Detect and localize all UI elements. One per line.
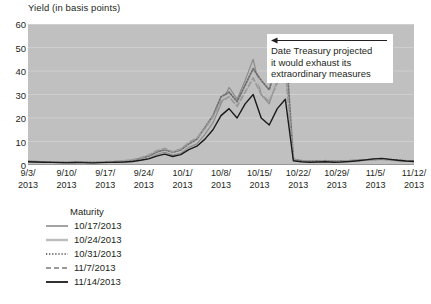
legend-swatch-icon <box>46 249 68 259</box>
x-tick-label: 11/12/2013 <box>388 168 431 191</box>
legend-swatch-icon <box>46 221 68 231</box>
legend-swatch-icon <box>46 277 68 287</box>
annotation-line-3: extraordinary measures <box>271 68 389 80</box>
legend-item[interactable]: 10/31/2013 <box>46 247 246 261</box>
left-arrow-icon <box>271 36 387 45</box>
y-tick-label: 10 <box>4 136 26 147</box>
legend-item-label: 10/17/2013 <box>74 221 122 231</box>
y-axis-title: Yield (in basis points) <box>28 2 120 13</box>
legend-item-label: 11/7/2013 <box>74 263 116 273</box>
legend-swatch-icon <box>46 263 68 273</box>
legend-item[interactable]: 11/7/2013 <box>46 261 246 275</box>
y-tick-label: 20 <box>4 113 26 124</box>
annotation-callout: Date Treasury projected it would exhaust… <box>267 34 393 83</box>
legend-item-label: 10/31/2013 <box>74 249 122 259</box>
legend-item-label: 10/24/2013 <box>74 235 122 245</box>
annotation-line-2: it would exhaust its <box>271 57 389 69</box>
annotation-text: Date Treasury projected it would exhaust… <box>271 45 389 80</box>
y-tick-label: 60 <box>4 19 26 30</box>
y-axis-ticks: 0102030405060 <box>0 24 26 165</box>
y-tick-label: 30 <box>4 89 26 100</box>
x-axis-ticks: 9/3/20139/10/20139/17/20139/24/201310/1/… <box>28 168 414 198</box>
y-tick-label: 50 <box>4 42 26 53</box>
y-tick-label: 40 <box>4 66 26 77</box>
legend-item[interactable]: 10/17/2013 <box>46 219 246 233</box>
legend-swatch-icon <box>46 235 68 245</box>
annotation-line-1: Date Treasury projected <box>271 45 389 57</box>
legend-item-label: 11/14/2013 <box>74 277 121 287</box>
legend-title: Maturity <box>70 206 246 217</box>
legend-item[interactable]: 10/24/2013 <box>46 233 246 247</box>
legend-item[interactable]: 11/14/2013 <box>46 275 246 289</box>
chart-legend: Maturity 10/17/201310/24/201310/31/20131… <box>46 206 246 289</box>
